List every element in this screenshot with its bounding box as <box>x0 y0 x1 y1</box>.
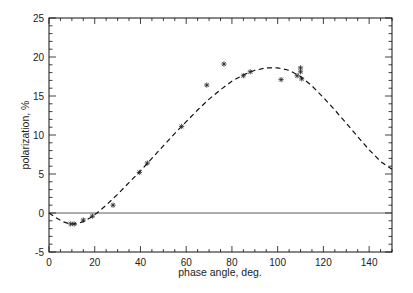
data-point <box>204 82 209 87</box>
data-markers <box>68 61 304 226</box>
y-tick-label: 20 <box>33 52 45 63</box>
fit-curve <box>49 68 392 224</box>
data-point <box>278 77 283 82</box>
data-point <box>179 124 184 129</box>
data-point <box>72 221 77 226</box>
y-tick-label: 5 <box>38 169 44 180</box>
x-tick-label: 0 <box>46 257 52 268</box>
data-point <box>90 214 95 219</box>
data-point <box>145 160 150 165</box>
data-point <box>221 61 226 66</box>
data-point <box>241 73 246 78</box>
data-point <box>137 170 142 175</box>
y-tick-label: 10 <box>33 130 45 141</box>
y-tick-label: -5 <box>35 247 44 258</box>
data-point <box>299 76 304 81</box>
x-tick-label: 140 <box>361 257 378 268</box>
x-tick-label: 20 <box>89 257 101 268</box>
y-tick-label: 25 <box>33 13 45 24</box>
polarization-chart: 020406080100120140-50510152025 phase ang… <box>0 0 413 293</box>
data-point <box>248 69 253 74</box>
x-tick-label: 120 <box>315 257 332 268</box>
data-point <box>81 217 86 222</box>
plot-frame <box>49 18 392 252</box>
x-tick-label: 40 <box>135 257 147 268</box>
data-point <box>110 203 115 208</box>
x-tick-label: 100 <box>269 257 286 268</box>
y-axis-label: polarization, % <box>19 101 31 170</box>
y-tick-label: 15 <box>33 91 45 102</box>
axis-ticks: 020406080100120140-50510152025 <box>33 13 392 269</box>
y-tick-label: 0 <box>38 208 44 219</box>
x-axis-label: phase angle, deg. <box>178 266 262 278</box>
data-point <box>298 69 303 74</box>
